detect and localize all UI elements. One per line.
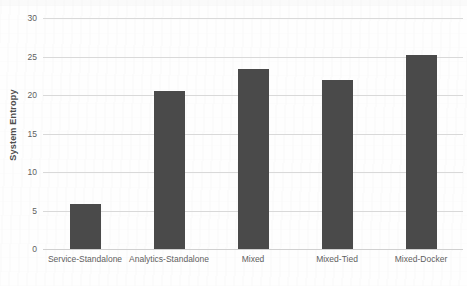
- bar[interactable]: [154, 91, 185, 249]
- y-axis-title-label: System Entropy: [8, 89, 18, 160]
- x-tick-label: Mixed-Docker: [395, 254, 447, 264]
- x-tick-label: Analytics-Standalone: [129, 254, 209, 264]
- x-tick-label: Mixed: [242, 254, 265, 264]
- x-axis-labels: Service-StandaloneAnalytics-StandaloneMi…: [43, 252, 463, 272]
- bar[interactable]: [322, 80, 353, 249]
- bars-layer: [43, 18, 463, 249]
- bar-chart: System Entropy 051015202530 Service-Stan…: [0, 0, 467, 286]
- y-tick-label: 10: [28, 167, 37, 177]
- x-tick-label: Mixed-Tied: [316, 254, 358, 264]
- bar[interactable]: [238, 69, 269, 249]
- y-tick-label: 0: [32, 244, 37, 254]
- bar[interactable]: [406, 55, 437, 249]
- x-tick-label: Service-Standalone: [48, 254, 122, 264]
- y-tick-label: 20: [28, 90, 37, 100]
- y-tick-label: 25: [28, 52, 37, 62]
- gridline: [43, 249, 463, 250]
- y-tick-label: 15: [28, 129, 37, 139]
- y-tick-label: 5: [32, 206, 37, 216]
- y-axis-title: System Entropy: [4, 0, 22, 249]
- y-tick-label: 30: [28, 13, 37, 23]
- plot-area: 051015202530: [43, 18, 463, 249]
- bar[interactable]: [70, 204, 101, 249]
